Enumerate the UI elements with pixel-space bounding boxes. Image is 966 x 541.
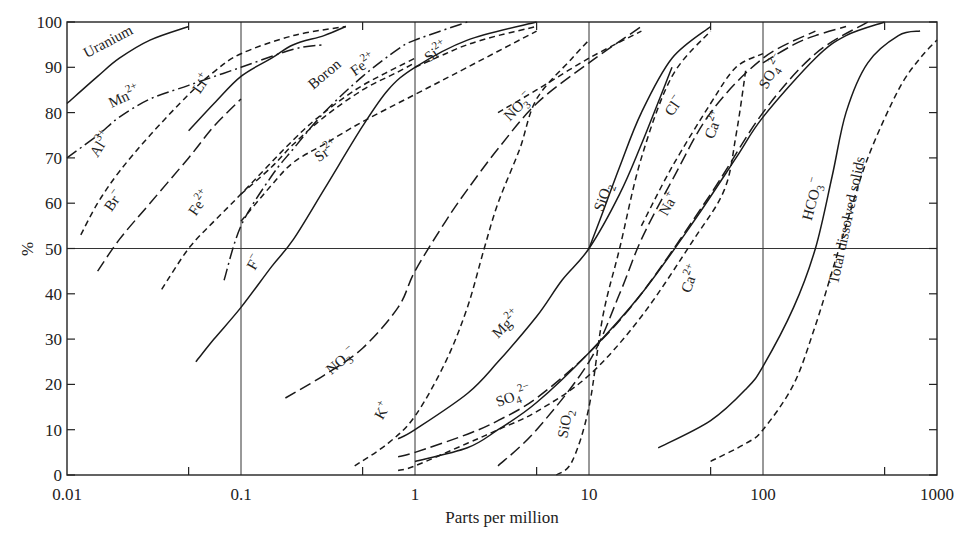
x-tick-label: 1	[411, 485, 420, 504]
y-tick-label: 30	[45, 330, 62, 349]
curve-label: Cl−	[658, 91, 686, 119]
y-tick-label: 80	[45, 104, 62, 123]
curve-hco3-	[658, 31, 920, 448]
curve-label: Ca2+	[674, 261, 703, 295]
x-tick-label: 0.1	[230, 485, 251, 504]
curve-label: Mn2+	[104, 79, 142, 111]
curve-label: SiO2	[591, 181, 619, 215]
curve-labels: UraniumMn2+Li+Al3+Br−Fe2+BoronFe2+Sr2+F−…	[81, 22, 868, 440]
y-tick-label: 90	[45, 58, 62, 77]
curve-na-	[415, 22, 885, 461]
y-tick-label: 70	[45, 149, 62, 168]
y-tick-label: 100	[37, 13, 63, 32]
curve-label: Fe2+	[182, 185, 214, 218]
cumulative-frequency-chart: UraniumMn2+Li+Al3+Br−Fe2+BoronFe2+Sr2+F−…	[0, 0, 966, 541]
curve-label: K+	[368, 397, 394, 422]
y-tick-label: 60	[45, 194, 62, 213]
curve-label: NO3−	[498, 86, 538, 126]
curve-label: Mg2+	[486, 304, 523, 341]
x-tick-label: 0.01	[52, 485, 82, 504]
y-tick-label: 10	[45, 421, 62, 440]
y-tick-label: 50	[45, 240, 62, 259]
curve-label: SO42−	[492, 379, 534, 413]
curve-label: Br−	[97, 185, 126, 214]
x-tick-label: 1000	[920, 485, 954, 504]
curve-label: F−	[240, 250, 265, 273]
y-axis-title: %	[18, 242, 37, 256]
curve-label: Na+	[652, 188, 681, 219]
y-tick-label: 20	[45, 375, 62, 394]
curve-no3-low-	[285, 27, 641, 399]
curve-br-	[98, 99, 241, 271]
curve-label: Boron	[305, 56, 344, 93]
curve-sio2-upper-	[589, 27, 711, 249]
curve-total-dissolved-solids	[711, 40, 937, 461]
curve-sio2-lower-	[556, 31, 710, 475]
curve-no3-high-	[498, 31, 641, 113]
x-axis-ticks: 0.010.11101001000	[52, 22, 954, 504]
x-tick-label: 10	[581, 485, 598, 504]
curve-fe2-high-	[241, 63, 415, 194]
curve-label: Fe2+	[345, 47, 378, 79]
curve-mn2-	[67, 45, 324, 158]
curve-label: Uranium	[81, 22, 136, 61]
x-axis-title: Parts per million	[445, 508, 559, 527]
y-tick-label: 0	[54, 466, 63, 485]
y-tick-label: 40	[45, 285, 62, 304]
x-tick-label: 100	[750, 485, 776, 504]
curve-mg2-	[398, 67, 672, 439]
curve-label: Sr2+	[309, 134, 341, 165]
curve-sr2-	[241, 31, 537, 221]
curve-label: SiO2	[554, 408, 578, 440]
curve-label: NO3−	[320, 341, 360, 380]
